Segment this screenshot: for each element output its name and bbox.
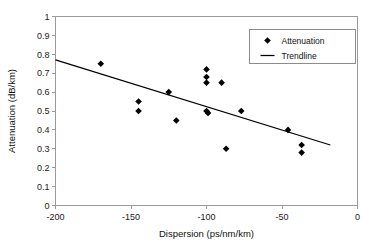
data-point-marker: [238, 108, 245, 115]
data-point-marker: [98, 60, 105, 67]
y-axis-title: Attenuation (dB/km): [6, 69, 17, 153]
trendline-path: [56, 60, 331, 145]
y-tick-label: 0.9: [37, 31, 50, 41]
data-point-marker: [298, 142, 305, 149]
y-tick-label: 0.7: [37, 68, 50, 78]
scatter-chart-figure: 00.10.20.30.40.50.60.70.80.91-200-150-10…: [0, 0, 370, 250]
x-axis-title: Dispersion (ps/nm/km): [159, 228, 254, 239]
data-point-marker: [203, 66, 210, 73]
data-point-marker: [173, 117, 180, 124]
data-points-group: [98, 60, 305, 155]
x-axis-ticks: -200-150-100-500: [46, 206, 360, 222]
y-tick-label: 0.2: [37, 163, 50, 173]
data-point-marker: [135, 108, 142, 115]
y-tick-label: 0.5: [37, 106, 50, 116]
y-tick-label: 0.6: [37, 87, 50, 97]
x-tick-label: -200: [46, 212, 64, 222]
y-tick-label: 0: [44, 201, 49, 211]
legend-label: Trendline: [282, 51, 317, 61]
data-point-marker: [218, 79, 225, 86]
trendline-group: [56, 60, 331, 145]
x-tick-label: -50: [275, 212, 288, 222]
legend-label: Attenuation: [282, 36, 325, 46]
y-tick-label: 0.1: [37, 182, 50, 192]
y-tick-label: 0.3: [37, 144, 50, 154]
legend: AttenuationTrendline: [250, 30, 356, 64]
data-point-marker: [203, 74, 210, 81]
data-point-marker: [298, 149, 305, 156]
y-tick-label: 0.4: [37, 125, 50, 135]
chart-canvas: 00.10.20.30.40.50.60.70.80.91-200-150-10…: [0, 0, 370, 250]
data-point-marker: [135, 98, 142, 105]
y-tick-label: 0.8: [37, 50, 50, 60]
x-tick-label: 0: [355, 212, 360, 222]
x-tick-label: -150: [122, 212, 140, 222]
y-tick-label: 1: [44, 12, 49, 22]
x-tick-label: -100: [197, 212, 215, 222]
data-point-marker: [203, 79, 210, 86]
data-point-marker: [223, 146, 230, 153]
y-axis-ticks: 00.10.20.30.40.50.60.70.80.91: [37, 12, 56, 211]
